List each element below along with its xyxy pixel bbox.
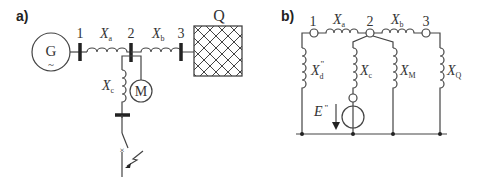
inductor-xc-icon (122, 70, 126, 118)
inductor-xc-icon (353, 48, 357, 94)
generator-icon: G ~ (32, 33, 70, 71)
circuit-diagrams: a) G ~ 1 Xa 2 Xb 3 Q (0, 0, 481, 185)
inductor-xa-icon (318, 29, 366, 33)
xb-label: Xb (151, 26, 165, 43)
inductor-xa-icon (87, 48, 131, 52)
xq-label: XQ (446, 63, 462, 80)
xa-label: Xa (99, 26, 113, 43)
inductor-xd-icon (302, 48, 306, 134)
node-1-label: 1 (310, 14, 317, 29)
arrow-down-icon (332, 104, 340, 130)
motor-label: M (135, 84, 148, 99)
ac-symbol: ~ (48, 58, 54, 70)
xc-label: Xc (101, 78, 115, 95)
node-3-label: 3 (423, 14, 430, 29)
xc-label-b: Xc (359, 63, 373, 80)
inductor-xm-icon (393, 48, 397, 134)
source-terminal-node (349, 94, 357, 102)
source-label: E" (313, 103, 329, 119)
bus-3-label: 3 (178, 26, 185, 41)
panel-label-a: a) (16, 8, 28, 24)
node-2-label: 2 (367, 14, 374, 29)
grid-q-label: Q (213, 7, 225, 24)
diagram-a: a) G ~ 1 Xa 2 Xb 3 Q (16, 7, 242, 177)
node-3 (422, 29, 430, 37)
panel-label-b: b) (281, 8, 294, 24)
xd-label: Xd" (310, 59, 325, 81)
xb-label-b: Xb (390, 12, 404, 29)
grid-q-icon (194, 26, 242, 76)
generator-label: G (46, 43, 57, 59)
fault-lightning-icon (125, 151, 143, 168)
node-2 (366, 29, 374, 37)
inductor-xq-icon (440, 48, 444, 134)
xa-label-b: Xa (332, 12, 346, 29)
bus-2-label: 2 (128, 26, 135, 41)
inductor-xb-icon (131, 48, 194, 52)
xm-label: XM (399, 63, 416, 80)
node-1 (310, 29, 318, 37)
diagram-b: b) 1 Xa 2 Xb 3 Xd" Xc XM XQ (281, 8, 462, 136)
inductor-xb-icon (374, 29, 422, 33)
bus-1-label: 1 (77, 26, 84, 41)
